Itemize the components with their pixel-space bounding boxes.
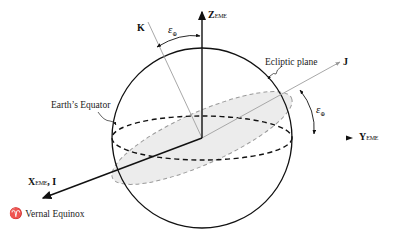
y-label-subscript: EME [366, 135, 378, 141]
aries-icon: ♈ [9, 207, 23, 219]
k-axis [148, 22, 202, 138]
x-label-suffix: , I [47, 176, 56, 187]
diagram-canvas: ZEME K J YEME XEME, I ε⊕ ε⊕ Ecliptic pla… [0, 0, 396, 243]
z-label-text: Z [208, 9, 215, 20]
vernal-equinox-label: ♈ Vernal Equinox [9, 208, 85, 220]
obliquity-label-right: ε⊕ [316, 104, 325, 117]
earth-symbol: ⊕ [320, 111, 325, 117]
earth-symbol: ⊕ [172, 31, 177, 37]
vernal-equinox-text: Vernal Equinox [25, 209, 84, 219]
z-label-subscript: EME [215, 13, 227, 19]
diagram-graphic [0, 0, 396, 243]
j-label-text: J [343, 56, 348, 67]
obliquity-label-top: ε⊕ [168, 24, 177, 37]
z-axis-label: ZEME [208, 10, 227, 20]
earth-equator-label: Earth’s Equator [51, 101, 110, 111]
ecliptic-plane-label: Ecliptic plane [265, 58, 318, 68]
obliquity-arc-right [300, 90, 314, 134]
k-label-text: K [137, 22, 145, 33]
x-axis-label: XEME, I [28, 177, 56, 187]
x-label-subscript: EME [35, 180, 47, 186]
k-axis-label: K [137, 23, 145, 33]
ecliptic-leader [268, 66, 282, 79]
obliquity-arc-top [157, 35, 200, 47]
j-axis-label: J [343, 57, 348, 67]
y-axis-arrowhead [346, 136, 353, 141]
y-axis-label: YEME [359, 132, 378, 142]
